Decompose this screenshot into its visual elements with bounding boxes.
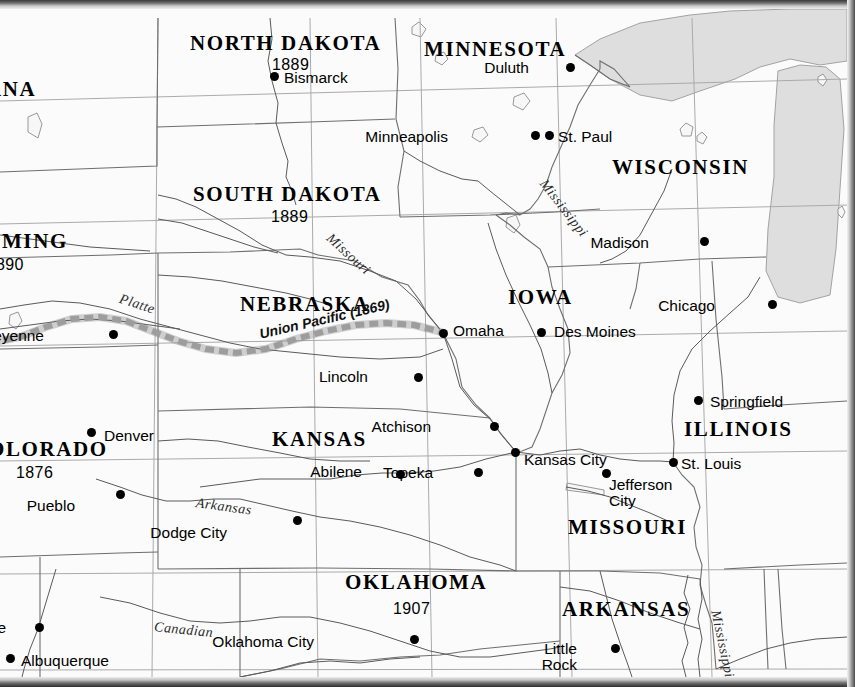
city-label-st-paul: St. Paul: [558, 129, 612, 145]
city-dot-st-louis: [669, 458, 678, 467]
state-label-iowa: IOWA: [508, 287, 573, 309]
city-dot-springfield: [694, 396, 703, 405]
historical-map-figure: .border { fill:none; stroke:#6e6e6e; str…: [0, 0, 855, 687]
city-label-cheyenne: Cheyenne: [0, 328, 44, 344]
state-label-missouri: MISSOURI: [568, 517, 687, 539]
city-label-jefferson-city: Jefferson City: [609, 477, 672, 510]
city-dot-santa-fe: [35, 623, 44, 632]
state-label-wyoming: OMING: [0, 231, 68, 253]
state-label-illinois: ILLINOIS: [684, 419, 793, 441]
state-label-south-dakota: SOUTH DAKOTA: [193, 184, 382, 206]
map-frame-top: [0, 0, 855, 9]
state-label-oklahoma: OKLAHOMA: [345, 572, 487, 594]
state-label-colorado: OLORADO: [0, 439, 108, 461]
city-dot-pueblo: [116, 490, 125, 499]
city-label-bismarck: Bismarck: [284, 70, 348, 86]
city-label-duluth: Duluth: [484, 60, 529, 76]
city-label-madison: Madison: [590, 235, 649, 251]
statehood-year-south-dakota: 1889: [271, 209, 308, 225]
state-label-wisconsin: WISCONSIN: [612, 157, 749, 179]
city-dot-topeka: [474, 468, 483, 477]
state-label-arkansas: ARKANSAS: [562, 599, 690, 621]
city-dot-lincoln: [414, 373, 423, 382]
map-frame-bottom: [0, 677, 855, 687]
statehood-year-oklahoma: 1907: [393, 601, 430, 617]
statehood-year-wyoming: 890: [0, 257, 24, 273]
city-label-springfield: Springfield: [710, 394, 783, 410]
state-label-minnesota: MINNESOTA: [424, 39, 566, 61]
city-label-oklahoma-city: Oklahoma City: [212, 634, 314, 650]
city-label-st-louis: St. Louis: [681, 456, 741, 472]
statehood-year-colorado: 1876: [16, 465, 53, 481]
city-label-santa-fe: a Fe: [0, 620, 6, 636]
city-label-topeka: Topeka: [383, 465, 433, 481]
city-label-minneapolis: Minneapolis: [365, 129, 448, 145]
city-label-denver: Denver: [104, 428, 154, 444]
city-dot-kansas-city: [511, 448, 520, 457]
city-label-des-moines: Des Moines: [554, 324, 636, 340]
city-dot-little-rock: [611, 644, 620, 653]
city-label-lincoln: Lincoln: [319, 369, 368, 385]
lake-michigan: [766, 65, 844, 303]
city-dot-chicago: [768, 300, 777, 309]
city-label-abilene: Abilene: [310, 464, 362, 480]
city-dot-st-paul: [545, 131, 554, 140]
city-label-pueblo: Pueblo: [27, 498, 75, 514]
city-label-dodge-city: Dodge City: [150, 525, 227, 541]
city-dot-albuquerque: [6, 654, 15, 663]
city-label-omaha: Omaha: [453, 323, 504, 339]
city-dot-dodge-city: [293, 516, 302, 525]
city-label-albuquerque: Albuquerque: [21, 653, 109, 669]
city-label-kansas-city: Kansas City: [524, 452, 607, 468]
city-label-chicago: Chicago: [658, 298, 715, 314]
city-dot-oklahoma-city: [410, 635, 419, 644]
city-dot-duluth: [566, 63, 575, 72]
city-dot-atchison: [490, 422, 499, 431]
city-label-atchison: Atchison: [372, 419, 431, 435]
city-dot-cheyenne: [109, 330, 118, 339]
city-dot-madison: [700, 237, 709, 246]
city-dot-des-moines: [537, 328, 546, 337]
city-dot-omaha: [439, 329, 448, 338]
state-label-north-dakota: NORTH DAKOTA: [190, 33, 381, 55]
city-dot-minneapolis: [531, 131, 540, 140]
city-dot-denver: [87, 428, 96, 437]
state-label-montana: ANA: [0, 79, 36, 101]
map-frame-right: [847, 0, 855, 687]
city-dot-bismarck: [270, 72, 279, 81]
state-label-kansas: KANSAS: [272, 429, 367, 451]
city-label-little-rock: Little Rock: [542, 641, 577, 674]
